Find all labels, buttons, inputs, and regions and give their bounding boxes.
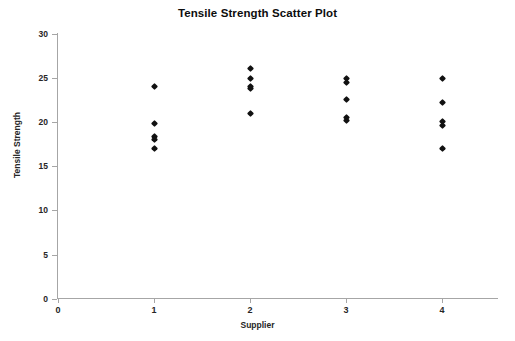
y-tick-mark (52, 166, 57, 167)
x-tick-mark (250, 299, 251, 303)
y-tick-label: 25 (24, 73, 48, 83)
x-tick-mark (346, 299, 347, 303)
y-tick-label: 5 (24, 250, 48, 260)
x-axis-title: Supplier (0, 320, 515, 330)
scatter-chart: Tensile Strength Scatter Plot 0510152025… (0, 0, 515, 341)
y-tick-mark (52, 255, 57, 256)
y-tick-label: 15 (24, 161, 48, 171)
x-tick-mark (154, 299, 155, 303)
x-tick-label: 4 (427, 305, 457, 315)
x-tick-label: 2 (235, 305, 265, 315)
x-tick-mark (58, 299, 59, 303)
chart-title: Tensile Strength Scatter Plot (0, 7, 515, 19)
y-tick-mark (52, 34, 57, 35)
y-tick-label: 20 (24, 117, 48, 127)
y-tick-label: 30 (24, 29, 48, 39)
y-tick-mark (52, 78, 57, 79)
y-tick-label: 0 (24, 294, 48, 304)
plot-area (58, 34, 490, 299)
y-axis-title: Tensile Strength (12, 90, 22, 200)
y-tick-mark (52, 122, 57, 123)
x-tick-label: 0 (43, 305, 73, 315)
y-tick-mark (52, 210, 57, 211)
x-tick-label: 1 (139, 305, 169, 315)
y-tick-mark (52, 299, 57, 300)
x-tick-label: 3 (331, 305, 361, 315)
x-tick-mark (442, 299, 443, 303)
y-tick-label: 10 (24, 205, 48, 215)
